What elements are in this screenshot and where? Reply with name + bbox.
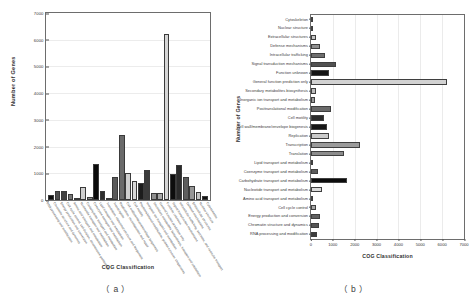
chart-b-row: Inorganic ion transport and metabolism (311, 97, 464, 103)
chart-b-category-label: General function prediction only (253, 80, 311, 84)
chart-a-bar (48, 195, 54, 200)
chart-b-bar (311, 35, 316, 40)
chart-a-bar (119, 135, 125, 200)
chart-b-x-tick-label: 2000 (350, 239, 359, 247)
chart-b-category-label: Defense mechanisms (270, 44, 311, 48)
chart-b-row: Cytoskeleton (311, 17, 464, 23)
chart-a-bar (176, 165, 182, 200)
chart-b-row: General function prediction only (311, 79, 464, 85)
chart-b-row: Translation (311, 151, 464, 157)
chart-a-bar (157, 193, 163, 200)
chart-b-x-tick-label: 5000 (416, 239, 425, 247)
chart-a-y-tick-label: 5000 (34, 64, 46, 69)
chart-b-x-tick-label: 4000 (394, 239, 403, 247)
chart-b-row: Chromatin structure and dynamics (311, 223, 464, 229)
chart-b-bar (311, 124, 327, 129)
chart-b-row: Secondary metabolites biosynthesis (311, 88, 464, 94)
chart-b-category-label: Secondary metabolites biosynthesis (245, 89, 311, 93)
chart-b-row: Coenzyme transport and metabolism (311, 169, 464, 175)
chart-b-bar (311, 196, 313, 201)
chart-b-category-label: Cytoskeleton (285, 18, 311, 22)
chart-a-bar (93, 164, 99, 200)
chart-b-row: Defense mechanisms (311, 44, 464, 50)
chart-a-bar (68, 194, 74, 200)
chart-a-y-tick-label: 3000 (34, 117, 46, 122)
chart-b-bar (311, 133, 329, 138)
chart-a-bar (138, 183, 144, 200)
chart-b-bar (311, 160, 313, 165)
chart-b-category-label: Cell cycle control (278, 206, 311, 210)
chart-b-category-label: Coenzyme transport and metabolism (244, 170, 311, 174)
chart-b-row: Transcription (311, 142, 464, 148)
chart-b-bar (311, 142, 360, 147)
chart-b-x-tick-label: 6000 (438, 239, 447, 247)
chart-b-category-label: Translation (289, 152, 311, 156)
chart-b-bar-series: CytoskeletonNuclear structureExtracellul… (311, 15, 464, 239)
chart-a-bar (80, 187, 86, 200)
chart-b-category-label: Carbohydrate transport and metabolism (239, 179, 311, 183)
chart-a-bar (202, 196, 208, 200)
chart-a-bar (151, 193, 157, 200)
chart-b-bar (311, 223, 319, 228)
chart-b-category-label: Function unknown (276, 71, 311, 75)
chart-b-bar (311, 79, 447, 84)
chart-a-x-axis-title: COG Classification (45, 264, 211, 270)
chart-b-row: Carbohydrate transport and metabolism (311, 178, 464, 184)
chart-b-row: Amino acid transport and metabolism (311, 196, 464, 202)
chart-b-bar (311, 97, 315, 102)
chart-a-bar (106, 198, 112, 200)
chart-b-row: Energy production and conversion (311, 214, 464, 220)
chart-b-category-label: RNA processing and modification (250, 232, 311, 236)
chart-a-y-axis-title: Number of Genes (10, 56, 16, 106)
chart-b-bar (311, 106, 331, 111)
chart-b-row: Nuclear structure (311, 26, 464, 32)
chart-b-category-label: Extracellular structures (268, 35, 311, 39)
chart-b-row: Signal transduction mechanisms (311, 61, 464, 67)
chart-b-x-tick-label: 0 (310, 239, 312, 247)
chart-b-bar (311, 88, 316, 93)
chart-b-y-axis-title: Number of Genes (235, 96, 241, 142)
chart-a-y-tick-label: 4000 (34, 91, 46, 96)
chart-b-bar (311, 232, 317, 237)
chart-b-x-axis-title: COG Classification (310, 253, 465, 259)
chart-b-bar (311, 205, 316, 210)
chart-b-category-label: Lipid transport and metabolism (254, 161, 311, 165)
chart-b-bar (311, 178, 347, 183)
chart-b-category-label: Nucleotide transport and metabolism (244, 188, 311, 192)
chart-b-bar (311, 62, 336, 67)
chart-b-row: Cell wall/membrane/envelope biogenesis (311, 124, 464, 130)
chart-a-y-tick-label: 1000 (34, 171, 46, 176)
panel-a: Number of Genes 700060005000400030002000… (0, 0, 232, 308)
chart-a-bar (196, 192, 202, 200)
chart-b-category-label: Amino acid transport and metabolism (243, 197, 311, 201)
chart-a-bar (112, 177, 118, 201)
figure-container: Number of Genes 700060005000400030002000… (0, 0, 475, 308)
chart-b-category-label: Chromatin structure and dynamics (248, 223, 311, 227)
chart-a-bar (144, 170, 150, 200)
chart-b-bar (311, 169, 318, 174)
panel-a-caption: （ a ） (0, 282, 232, 294)
chart-a-y-tick-label: 2000 (34, 144, 46, 149)
chart-b-row: Cell motility (311, 115, 464, 121)
chart-b-category-label: Transcription (285, 143, 311, 147)
chart-a-bar (170, 174, 176, 200)
chart-b-row: Posttranslational modification (311, 106, 464, 112)
chart-b-row: Function unknown (311, 70, 464, 76)
chart-a-x-tick-labels: RNA processing and modificationChromatin… (45, 202, 211, 260)
chart-b-row: Nucleotide transport and metabolism (311, 187, 464, 193)
chart-a-bar (100, 191, 106, 200)
chart-a-bar (164, 34, 170, 200)
chart-b-bar (311, 53, 325, 58)
chart-a-bar (125, 173, 131, 200)
panel-b-caption: （ b ） (232, 282, 475, 294)
panel-b: Number of Genes CytoskeletonNuclear stru… (232, 0, 475, 308)
chart-b-row: Intracellular trafficking (311, 52, 464, 58)
chart-b-category-label: Replication (289, 134, 311, 138)
chart-b-row: Lipid transport and metabolism (311, 160, 464, 166)
chart-a-bar-series (46, 13, 210, 200)
chart-b-x-tick-label: 3000 (372, 239, 381, 247)
chart-b-plot-area: CytoskeletonNuclear structureExtracellul… (310, 14, 465, 240)
chart-b-category-label: Intracellular trafficking (270, 53, 311, 57)
chart-b-category-label: Cell motility (288, 116, 311, 120)
chart-a-bar (74, 198, 80, 200)
